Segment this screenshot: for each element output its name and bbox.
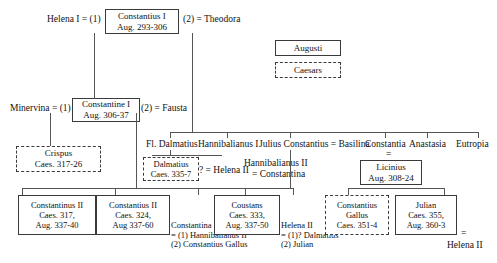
crispus-name: Crispus: [45, 148, 73, 159]
tick-constantinus-ii: [22, 188, 23, 195]
tick-julius-constantius: [290, 132, 291, 138]
helena-i-label: Helena I = (1): [47, 14, 101, 25]
constantius-gallus-caesar: Caes. 351-4: [337, 220, 378, 230]
constantius-ii-box: Constantius II Caes. 324, Aug 337-60: [96, 195, 170, 235]
tick-constantius-ii: [115, 188, 116, 195]
julian-caesar: Caes. 355,: [408, 210, 444, 220]
constantius-ii-augustus: Aug 337-60: [113, 220, 154, 230]
licinius-name: Licinius: [376, 162, 406, 173]
coustans-name: Coustans: [231, 200, 262, 210]
constantius-i-name: Constantius I: [118, 11, 166, 22]
tick-fl-dalmatius: [170, 132, 171, 138]
constantius-ii-name: Constantius II: [109, 200, 157, 210]
legend-augusti-box: Augusti: [275, 40, 341, 56]
anastasia-label: Anastasia: [409, 139, 446, 150]
constantius-i-box: Constantius I Aug. 293-306: [105, 9, 179, 34]
coustans-caesar: Caes. 333,: [229, 210, 265, 220]
constantinus-ii-augustus: Aug. 337-40: [36, 220, 79, 230]
constantine-i-box: Constantine I Aug. 306-37: [72, 98, 140, 122]
constantine-i-reign: Aug. 306-37: [83, 110, 129, 121]
coustans-augustus: Aug. 337-50: [226, 220, 269, 230]
sibling-bar-constantine-children: [22, 188, 293, 189]
minervina-label: Minervina = (1): [10, 103, 71, 114]
tick-constantina: [198, 188, 199, 195]
constantinus-ii-box: Constantinus II Caes. 317, Aug. 337-40: [18, 195, 96, 235]
dalmatius-name: Dalmatius: [154, 159, 189, 169]
julian-augustus: Aug. 360-3: [407, 220, 446, 230]
tick-constantius-gallus: [348, 188, 349, 195]
dalmatius-reign: Caes. 335-7: [151, 169, 192, 179]
connector-constantine-children: [136, 113, 137, 188]
legend-caesars-label: Caesars: [294, 65, 322, 76]
tick-constantia: [385, 132, 386, 138]
crispus-box: Crispus Caes. 317-26: [16, 146, 101, 172]
dalmatius-marriage-label: ? = Helena II: [199, 165, 249, 176]
julian-wife-label: Helena II: [447, 240, 483, 251]
connector-julius-constantius-down: [290, 150, 291, 188]
constantius-gallus-box: Constantius Gallus Caes. 351-4: [325, 195, 389, 235]
constantina-marriage-2: (2) Constantius Gallus: [171, 240, 248, 250]
constantinus-ii-caesar: Caes. 317,: [39, 210, 75, 220]
hannibalianus-ii-marriage-label: = Constantina: [252, 169, 305, 180]
constantine-i-name: Constantine I: [82, 99, 130, 110]
tick-coustans: [245, 188, 246, 195]
constantius-gallus-name2: Gallus: [346, 210, 368, 220]
licinius-box: Licinius Aug. 308-24: [360, 160, 422, 185]
legend-caesars-box: Caesars: [275, 62, 341, 78]
tick-hannibalianus-i: [227, 132, 228, 138]
legend-augusti-label: Augusti: [294, 43, 323, 54]
tick-anastasia: [427, 132, 428, 138]
dalmatius-box: Dalmatius Caes. 335-7: [143, 157, 199, 181]
sibling-bar-julius-children: [348, 188, 444, 189]
tick-eutropia: [478, 132, 479, 138]
tick-helena-ii: [293, 188, 294, 195]
licinius-equals-sign: =: [386, 149, 391, 160]
tick-julian: [444, 188, 445, 195]
connector-minervina-crispus: [50, 113, 51, 146]
sibling-bar-dalmatius: [152, 155, 222, 156]
constantinus-ii-name: Constantinus II: [31, 200, 83, 210]
julius-constantius-label: Julius Constantius = Basilina: [259, 139, 370, 150]
hannibalianus-ii-label: Hannibalianus II: [244, 158, 308, 169]
licinius-reign: Aug. 308-24: [368, 173, 414, 184]
connector-helena-constantine: [94, 33, 95, 99]
connector-theodora-children: [192, 33, 193, 132]
constantius-ii-caesar: Caes. 324,: [115, 210, 151, 220]
coustans-box: Coustans Caes. 333, Aug. 337-50: [214, 195, 280, 235]
theodora-label: (2) = Theodora: [183, 14, 240, 25]
helena-ii-marriage-2: (2) Julian: [281, 240, 339, 250]
family-tree-diagram: Helena I = (1) Constantius I Aug. 293-30…: [0, 0, 497, 263]
fausta-label: (2) = Fausta: [141, 103, 187, 114]
eutropia-label: Eutropia: [456, 139, 489, 150]
julian-box: Julian Caes. 355, Aug. 360-3: [395, 195, 457, 235]
hannibalianus-i-label: Hannibalianus I: [198, 139, 258, 150]
constantius-gallus-name: Constantius: [337, 200, 377, 210]
sibling-bar-theodora: [170, 132, 478, 133]
julian-equals-sign: =: [461, 228, 466, 239]
fl-dalmatius-label: Fl. Dalmatius: [146, 139, 198, 150]
julian-name: Julian: [416, 200, 436, 210]
crispus-reign: Caes. 317-26: [35, 159, 83, 170]
constantius-i-reign: Aug. 293-306: [117, 22, 167, 33]
